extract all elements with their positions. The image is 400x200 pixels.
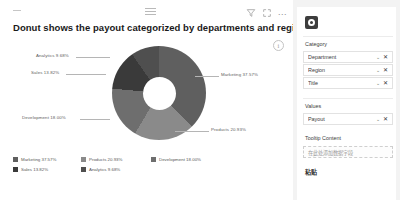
paste-label[interactable]: 粘贴 <box>305 167 317 176</box>
tooltip-drop-zone[interactable]: 在此处添加数据字段 <box>303 146 393 158</box>
legend-label: Products 20.93% <box>89 157 122 162</box>
leader-line-analytics <box>76 57 110 58</box>
callout-development: Development 18.00% <box>22 115 66 120</box>
field-name: Title <box>308 80 376 86</box>
pane-divider <box>303 98 393 99</box>
legend-label: Sales 13.82% <box>21 167 48 172</box>
field-name: Department <box>308 54 376 60</box>
corner-handle <box>13 10 21 11</box>
page-title: Donut shows the payout categorized by de… <box>13 22 312 33</box>
powerbi-visual-screenshot: ... Donut shows the payout categorized b… <box>0 0 400 200</box>
callout-products: Products 20.93% <box>211 127 246 132</box>
leader-line-marketing <box>195 76 219 77</box>
category-section-label: Category <box>305 41 327 47</box>
filter-icon[interactable] <box>246 7 257 18</box>
visual-toolbar: ... <box>0 0 293 19</box>
legend-label: Marketing 37.57% <box>21 157 56 162</box>
chevron-down-icon[interactable]: ⌄ <box>376 80 380 86</box>
legend-swatch <box>81 157 86 162</box>
legend-swatch <box>13 167 18 172</box>
hamburger-icon[interactable] <box>145 8 156 15</box>
fields-pane-body: Category Department ⌄ ✕ Region ⌄ ✕ Title… <box>297 7 396 200</box>
field-chip-region[interactable]: Region ⌄ ✕ <box>303 64 393 76</box>
visual-card: ... Donut shows the payout categorized b… <box>0 0 293 200</box>
pane-divider <box>303 36 393 37</box>
field-chip-payout[interactable]: Payout ⌄ ✕ <box>303 113 393 125</box>
remove-field-icon[interactable]: ✕ <box>383 67 388 73</box>
leader-line-sales <box>66 74 106 75</box>
legend-swatch <box>81 167 86 172</box>
legend-item[interactable]: Products 20.93% <box>81 157 151 162</box>
remove-field-icon[interactable]: ✕ <box>383 80 388 86</box>
tooltip-section-label: Tooltip Content <box>305 135 341 141</box>
remove-field-icon[interactable]: ✕ <box>383 54 388 60</box>
legend-item[interactable]: Sales 13.82% <box>13 167 81 172</box>
chevron-down-icon[interactable]: ⌄ <box>376 54 380 60</box>
chevron-down-icon[interactable]: ⌄ <box>376 116 380 122</box>
field-chip-department[interactable]: Department ⌄ ✕ <box>303 51 393 63</box>
callout-marketing: Marketing 37.57% <box>221 72 258 77</box>
legend-swatch <box>13 157 18 162</box>
chevron-down-icon[interactable]: ⌄ <box>376 67 380 73</box>
more-options-icon[interactable]: ... <box>278 8 287 17</box>
callout-analytics: Analytics 9.68% <box>36 53 69 58</box>
field-name: Region <box>308 67 376 73</box>
leader-line-development <box>80 119 110 120</box>
legend-item[interactable]: Analytics 9.68% <box>81 167 151 172</box>
values-section-label: Values <box>305 103 321 109</box>
legend-label: Analytics 9.68% <box>89 167 120 172</box>
remove-field-icon[interactable]: ✕ <box>383 116 388 122</box>
drop-zone-placeholder: 在此处添加数据字段 <box>308 149 353 156</box>
field-name: Payout <box>308 116 376 122</box>
visual-fields-icon[interactable] <box>305 16 318 29</box>
leader-line-products <box>175 131 209 132</box>
legend-item[interactable]: Marketing 37.57% <box>13 157 81 162</box>
legend-label: Development 18.00% <box>159 157 201 162</box>
legend-item[interactable]: Development 18.00% <box>151 157 219 162</box>
donut-chart: Analytics 9.68% Sales 13.82% Development… <box>0 44 293 154</box>
chart-legend: Marketing 37.57% Products 20.93% Develop… <box>13 157 283 177</box>
field-chip-title[interactable]: Title ⌄ ✕ <box>303 77 393 89</box>
donut-hole <box>143 77 176 110</box>
fields-pane: Category Department ⌄ ✕ Region ⌄ ✕ Title… <box>293 0 400 200</box>
donut-glyph <box>308 19 315 26</box>
legend-swatch <box>151 157 156 162</box>
focus-mode-icon[interactable] <box>262 7 273 18</box>
donut-graphic[interactable] <box>112 46 206 140</box>
visual-header-icons: ... <box>246 7 287 18</box>
callout-sales: Sales 13.82% <box>31 70 59 75</box>
